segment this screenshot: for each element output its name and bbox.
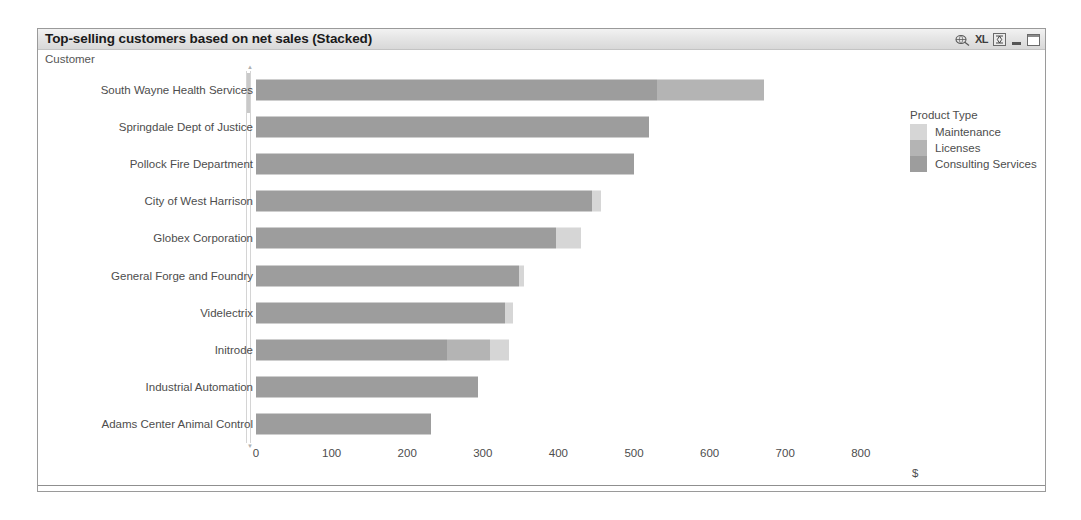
bar-segment-maintenance[interactable] — [519, 265, 524, 286]
value-tick-label: 400 — [549, 447, 568, 459]
stacked-bar[interactable] — [256, 116, 649, 137]
category-label: Globex Corporation — [153, 232, 253, 244]
legend-items: MaintenanceLicensesConsulting Services — [910, 124, 1045, 172]
value-tick-label: 100 — [322, 447, 341, 459]
chart-row: Adams Center Animal Control — [38, 406, 1045, 443]
bar-segment-consulting-services[interactable] — [256, 228, 556, 249]
legend-item[interactable]: Consulting Services — [910, 156, 1045, 172]
stacked-bar[interactable] — [256, 79, 764, 100]
stacked-bar[interactable] — [256, 228, 581, 249]
bar-segment-maintenance[interactable] — [592, 191, 600, 212]
category-label: Initrode — [215, 344, 253, 356]
category-axis-title: Customer — [45, 53, 95, 65]
value-tick-label: 600 — [700, 447, 719, 459]
chart-row: Initrode — [38, 331, 1045, 368]
legend-swatch — [910, 124, 927, 140]
chart-row: Pollock Fire Department — [38, 145, 1045, 182]
stacked-bar[interactable] — [256, 339, 509, 360]
legend-label: Licenses — [935, 142, 980, 154]
legend-swatch — [910, 156, 927, 172]
category-label: Pollock Fire Department — [130, 158, 253, 170]
maximize-icon[interactable] — [1027, 34, 1040, 46]
chart-row: General Forge and Foundry — [38, 257, 1045, 294]
stacked-bar[interactable] — [256, 414, 431, 435]
window-controls: XL — [955, 31, 1040, 48]
category-label: Springdale Dept of Justice — [119, 121, 253, 133]
bar-segment-maintenance[interactable] — [556, 228, 581, 249]
bar-segment-consulting-services[interactable] — [256, 153, 634, 174]
stacked-bar[interactable] — [256, 302, 513, 323]
category-label: Industrial Automation — [146, 381, 253, 393]
chart-row: Springdale Dept of Justice — [38, 108, 1045, 145]
chart-row: Videlectrix — [38, 294, 1045, 331]
chart-row: Globex Corporation — [38, 220, 1045, 257]
bar-segment-maintenance[interactable] — [490, 339, 509, 360]
minimize-icon[interactable] — [1011, 34, 1022, 45]
value-tick-label: 700 — [776, 447, 795, 459]
bar-segment-maintenance[interactable] — [505, 302, 513, 323]
chart-row: City of West Harrison — [38, 183, 1045, 220]
bar-segment-consulting-services[interactable] — [256, 265, 519, 286]
category-label: Adams Center Animal Control — [102, 418, 253, 430]
bar-segment-licenses[interactable] — [447, 339, 490, 360]
stacked-bar[interactable] — [256, 153, 634, 174]
chart-row: South Wayne Health Services — [38, 71, 1045, 108]
bar-segment-consulting-services[interactable] — [256, 191, 592, 212]
value-tick-label: 300 — [473, 447, 492, 459]
legend-label: Maintenance — [935, 126, 1001, 138]
chart-row: Industrial Automation — [38, 369, 1045, 406]
category-label: City of West Harrison — [145, 195, 253, 207]
category-label: South Wayne Health Services — [101, 84, 253, 96]
chart-plot-area: ▲ ▼ South Wayne Health ServicesSpringdal… — [38, 71, 1045, 491]
bar-segment-consulting-services[interactable] — [256, 302, 505, 323]
print-icon[interactable] — [955, 33, 970, 46]
legend-item[interactable]: Maintenance — [910, 124, 1045, 140]
legend-swatch — [910, 140, 927, 156]
bar-segment-consulting-services[interactable] — [256, 339, 447, 360]
restore-icon[interactable] — [993, 33, 1006, 46]
window-title: Top-selling customers based on net sales… — [45, 31, 372, 46]
window-titlebar: Top-selling customers based on net sales… — [38, 29, 1045, 50]
category-label: General Forge and Foundry — [111, 270, 253, 282]
legend-label: Consulting Services — [935, 158, 1037, 170]
value-axis-title: $ — [912, 467, 918, 479]
legend-title: Product Type — [910, 109, 1045, 121]
bar-segment-consulting-services[interactable] — [256, 79, 657, 100]
stacked-bar[interactable] — [256, 265, 524, 286]
legend-item[interactable]: Licenses — [910, 140, 1045, 156]
excel-export-icon[interactable]: XL — [975, 34, 988, 45]
value-tick-label: 500 — [624, 447, 643, 459]
scroll-up-arrow[interactable]: ▲ — [247, 65, 252, 70]
legend: Product Type MaintenanceLicensesConsulti… — [910, 109, 1045, 172]
bar-segment-licenses[interactable] — [657, 79, 764, 100]
bar-segment-consulting-services[interactable] — [256, 116, 649, 137]
bar-segment-consulting-services[interactable] — [256, 414, 431, 435]
bars-area: South Wayne Health ServicesSpringdale De… — [38, 71, 1045, 443]
stacked-bar[interactable] — [256, 377, 478, 398]
value-tick-label: 200 — [398, 447, 417, 459]
value-axis-rule — [38, 485, 1045, 486]
stacked-bar[interactable] — [256, 191, 601, 212]
value-axis: $ 0100200300400500600700800 — [38, 445, 1045, 491]
value-tick-label: 800 — [851, 447, 870, 459]
value-tick-label: 0 — [253, 447, 259, 459]
chart-window: Top-selling customers based on net sales… — [37, 28, 1046, 492]
bar-segment-consulting-services[interactable] — [256, 377, 478, 398]
category-label: Videlectrix — [200, 307, 253, 319]
